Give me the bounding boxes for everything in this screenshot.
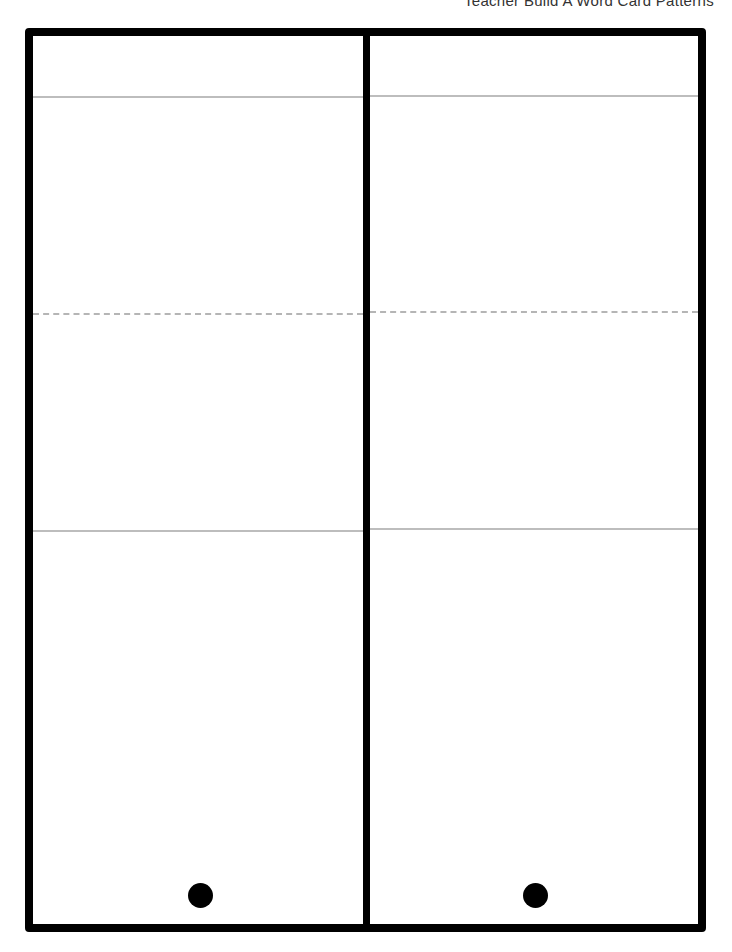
left-card-punch-hole-icon bbox=[188, 883, 213, 908]
card-divider bbox=[363, 32, 370, 928]
right-card-bottom-guide-line bbox=[370, 528, 698, 530]
page-header-title: Teacher Build A Word Card Patterns bbox=[464, 0, 714, 9]
right-card-top-guide-line bbox=[370, 95, 698, 97]
right-card-punch-hole-icon bbox=[523, 883, 548, 908]
left-card-top-guide-line bbox=[33, 96, 363, 98]
right-card-fold-line bbox=[370, 311, 698, 313]
left-card-bottom-guide-line bbox=[33, 530, 363, 532]
left-card-fold-line bbox=[33, 313, 363, 315]
